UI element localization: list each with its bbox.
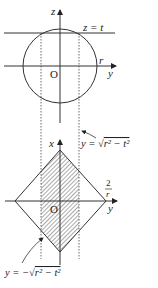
origin-label-top: O [50,68,58,80]
x-axis-label: x [48,137,54,149]
y-axis-label-bottom: y [107,202,113,214]
plane-label: z = t [82,21,104,33]
radius-label: r [99,54,104,66]
vertex-label-denominator: r [106,189,110,199]
y-axis-label-top: y [107,67,113,79]
cross-section-diagram: z z = t r y O y = √r² − t² x O 2 r y y =… [0,0,158,288]
vertex-label-numerator: 2 [106,178,111,188]
lower-equation: y = −√r² − t² [4,267,61,278]
upper-equation: y = √r² − t² [80,138,130,149]
pointer-arrow-upper [82,131,96,138]
bottom-plot [5,140,117,265]
z-axis-label: z [50,5,56,17]
origin-label-bottom: O [50,203,58,215]
pointer-arrow-lower [22,238,43,263]
